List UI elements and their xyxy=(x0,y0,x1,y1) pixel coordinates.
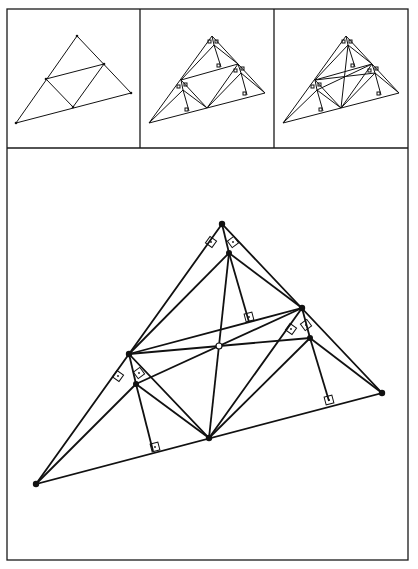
main-diagram xyxy=(33,221,385,487)
inner-point-a xyxy=(226,250,232,256)
inner-point-b xyxy=(133,381,139,387)
inner-point-c xyxy=(307,335,313,341)
diagram-canvas xyxy=(0,0,418,569)
vertex-a xyxy=(219,221,225,227)
panel-step-1 xyxy=(15,35,133,125)
panel-step-2 xyxy=(149,36,265,123)
panel-step-3 xyxy=(283,36,399,123)
midpoint-ac xyxy=(299,305,305,311)
midpoint-ab xyxy=(126,351,132,357)
vertex-c xyxy=(379,390,385,396)
vertex-b xyxy=(33,481,39,487)
center-point xyxy=(216,343,222,349)
midpoint-bc xyxy=(206,435,212,441)
outer-frame xyxy=(7,9,408,560)
